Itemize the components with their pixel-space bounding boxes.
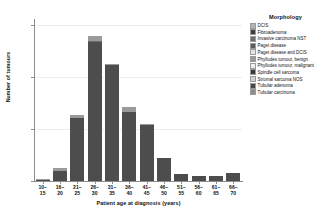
legend-item-label: Tubular carcinoma xyxy=(258,90,295,95)
legend-item[interactable]: Fibroadenoma xyxy=(250,29,329,35)
y-axis-title: Number of tumours xyxy=(5,17,11,137)
legend-item[interactable]: Phyllodes tumour, benign xyxy=(250,56,329,62)
legend-item[interactable]: Spindle cell sarcoma xyxy=(250,69,329,75)
bar[interactable] xyxy=(122,107,136,181)
bar-segment xyxy=(70,118,84,181)
x-tick-label: 26– 30 xyxy=(86,184,103,197)
legend-item[interactable]: Paget disease xyxy=(250,43,329,49)
x-tick-label: 10– 15 xyxy=(34,184,51,197)
legend-swatch-icon xyxy=(250,23,256,29)
legend-swatch-icon xyxy=(250,36,256,42)
legend-swatch-icon xyxy=(250,56,256,62)
bar[interactable] xyxy=(88,36,102,181)
legend-swatch-icon xyxy=(250,69,256,75)
legend-item-label: Paget disease xyxy=(258,43,287,48)
bar-segment xyxy=(140,125,154,181)
bar-segment xyxy=(53,171,67,181)
x-tick-label: 16– 20 xyxy=(51,184,68,197)
bar-segment xyxy=(105,65,119,181)
bar[interactable] xyxy=(226,173,240,181)
x-tick-label: 36– 40 xyxy=(121,184,138,197)
legend-swatch-icon xyxy=(250,43,256,49)
bar-segment xyxy=(88,42,102,181)
legend-item-label: Fibroadenoma xyxy=(258,30,287,35)
legend-item-label: Phyllodes tumour, malignant xyxy=(258,63,315,68)
bar[interactable] xyxy=(140,124,154,181)
plot-area xyxy=(34,20,242,181)
legend-item-label: Stromal sarcoma NOS xyxy=(258,77,303,82)
legend-item[interactable]: Invasive carcinoma NST xyxy=(250,36,329,42)
legend-swatch-icon xyxy=(250,29,256,35)
bar-segment xyxy=(174,174,188,181)
legend-item[interactable]: Tubular carcinoma xyxy=(250,89,329,95)
legend-item-label: Invasive carcinoma NST xyxy=(258,36,307,41)
bar[interactable] xyxy=(105,64,119,181)
legend-item[interactable]: Paget disease and DCIS xyxy=(250,49,329,55)
legend-swatch-icon xyxy=(250,83,256,89)
legend-item[interactable]: Tubular adenoma xyxy=(250,83,329,89)
bar[interactable] xyxy=(174,174,188,181)
x-tick-label: 66– 70 xyxy=(225,184,242,197)
legend-item-label: Paget disease and DCIS xyxy=(258,50,307,55)
x-tick-label: 41– 45 xyxy=(138,184,155,197)
bar[interactable] xyxy=(53,168,67,181)
bar[interactable] xyxy=(70,115,84,181)
chart-figure: Number of tumours 050100150 10– 1516– 20… xyxy=(0,0,329,218)
x-tick-label: 51– 55 xyxy=(173,184,190,197)
legend-item-label: DCIS xyxy=(258,23,269,28)
x-axis-title: Patient age at diagnosis (years) xyxy=(34,200,243,206)
bar[interactable] xyxy=(157,158,171,181)
legend-item-label: Spindle cell sarcoma xyxy=(258,70,300,75)
x-axis-line xyxy=(34,181,243,182)
legend-item-label: Tubular adenoma xyxy=(258,83,293,88)
legend-swatch-icon xyxy=(250,76,256,82)
legend-item[interactable]: Stromal sarcoma NOS xyxy=(250,76,329,82)
x-tick-label: 56– 60 xyxy=(190,184,207,197)
legend-swatch-icon xyxy=(250,49,256,55)
legend-swatch-icon xyxy=(250,63,256,69)
bar-segment xyxy=(226,173,240,181)
x-tick-label: 61– 65 xyxy=(207,184,224,197)
legend-item[interactable]: Phyllodes tumour, malignant xyxy=(250,63,329,69)
x-tick-label: 21– 25 xyxy=(69,184,86,197)
legend-item-label: Phyllodes tumour, benign xyxy=(258,57,309,62)
x-tick-label: 31– 35 xyxy=(103,184,120,197)
legend-swatch-icon xyxy=(250,89,256,95)
legend: Morphology DCISFibroadenomaInvasive carc… xyxy=(250,14,329,96)
legend-title: Morphology xyxy=(250,14,321,20)
legend-item[interactable]: DCIS xyxy=(250,23,329,29)
bar-segment xyxy=(122,112,136,181)
x-tick-label: 46– 50 xyxy=(155,184,172,197)
bar-segment xyxy=(157,158,171,181)
legend-items: DCISFibroadenomaInvasive carcinoma NSTPa… xyxy=(250,23,329,96)
